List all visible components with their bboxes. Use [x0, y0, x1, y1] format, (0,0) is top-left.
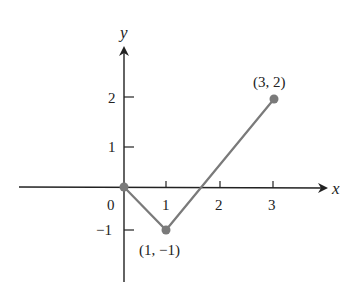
point-origin: [120, 183, 129, 192]
point-3-2: [270, 95, 279, 104]
x-axis: [19, 187, 326, 188]
x-axis-label: x: [331, 179, 340, 198]
data-line: [124, 99, 274, 230]
chart-canvas: x y 0 1 2 3 2 1 −1 (3, 2) (1, −1): [0, 0, 360, 302]
point-1-neg1: [162, 226, 171, 235]
y-tick-label-neg1: −1: [96, 222, 112, 238]
point-label-3-2: (3, 2): [253, 74, 286, 91]
y-tick-label-1: 1: [108, 139, 116, 155]
point-label-1-neg1: (1, −1): [139, 242, 180, 259]
x-tick-label-3: 3: [268, 197, 276, 213]
y-axis-label: y: [118, 23, 128, 42]
origin-label: 0: [107, 197, 115, 213]
x-tick-label-1: 1: [162, 197, 170, 213]
y-tick-label-2: 2: [108, 90, 116, 106]
x-tick-label-2: 2: [215, 197, 223, 213]
